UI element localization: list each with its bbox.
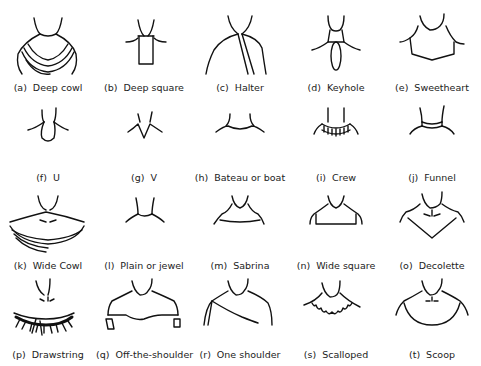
one-shoulder-illustration bbox=[192, 275, 288, 351]
label: (n)Wide square bbox=[288, 260, 384, 271]
scalloped-illustration bbox=[288, 275, 384, 351]
label: (d)Keyhole bbox=[288, 82, 384, 93]
neckline-funnel: (j)Funnel bbox=[384, 98, 480, 189]
neckline-v: (g)V bbox=[96, 98, 192, 189]
keyhole-illustration bbox=[288, 8, 384, 84]
sabrina-illustration bbox=[192, 186, 288, 262]
neckline-scoop: (t)Scoop bbox=[384, 275, 480, 366]
label: (p)Drawstring bbox=[0, 349, 96, 360]
v-illustration bbox=[96, 98, 192, 174]
neckline-u: (f)U bbox=[0, 98, 96, 189]
halter-illustration bbox=[192, 8, 288, 84]
neckline-off-the-shoulder: (q)Off-the-shoulder bbox=[96, 275, 192, 366]
neckline-wide-cowl: (k)Wide Cowl bbox=[0, 186, 96, 277]
sweetheart-illustration bbox=[384, 8, 480, 84]
neckline-one-shoulder: (r)One shoulder bbox=[192, 275, 288, 366]
neckline-deep-cowl: (a)Deep cowl bbox=[0, 8, 96, 99]
neckline-keyhole: (d)Keyhole bbox=[288, 8, 384, 99]
label: (m)Sabrina bbox=[192, 260, 288, 271]
neckline-deep-square: (b)Deep square bbox=[96, 8, 192, 99]
funnel-illustration bbox=[384, 98, 480, 174]
neckline-crew: (i)Crew bbox=[288, 98, 384, 189]
label: (l)Plain or jewel bbox=[96, 260, 192, 271]
label: (a)Deep cowl bbox=[0, 82, 96, 93]
plain-jewel-illustration bbox=[96, 186, 192, 262]
neckline-scalloped: (s)Scalloped bbox=[288, 275, 384, 366]
off-the-shoulder-illustration bbox=[96, 275, 192, 351]
deep-cowl-illustration bbox=[0, 8, 96, 84]
label: (o)Decolette bbox=[384, 260, 480, 271]
neckline-halter: (c)Halter bbox=[192, 8, 288, 99]
drawstring-illustration bbox=[0, 275, 96, 351]
scoop-illustration bbox=[384, 275, 480, 351]
label: (h)Bateau or boat bbox=[192, 172, 288, 183]
neckline-plain-jewel: (l)Plain or jewel bbox=[96, 186, 192, 277]
label: (e)Sweetheart bbox=[384, 82, 480, 93]
neckline-bateau: (h)Bateau or boat bbox=[192, 98, 288, 189]
crew-illustration bbox=[288, 98, 384, 174]
neckline-sweetheart: (e)Sweetheart bbox=[384, 8, 480, 99]
label: (t)Scoop bbox=[384, 349, 480, 360]
neckline-drawstring: (p)Drawstring bbox=[0, 275, 96, 366]
neckline-decolette: (o)Decolette bbox=[384, 186, 480, 277]
label: (g)V bbox=[96, 172, 192, 183]
decolette-illustration bbox=[384, 186, 480, 262]
label: (s)Scalloped bbox=[288, 349, 384, 360]
bateau-illustration bbox=[192, 98, 288, 174]
wide-square-illustration bbox=[288, 186, 384, 262]
label: (b)Deep square bbox=[96, 82, 192, 93]
neckline-sabrina: (m)Sabrina bbox=[192, 186, 288, 277]
deep-square-illustration bbox=[96, 8, 192, 84]
label: (k)Wide Cowl bbox=[0, 260, 96, 271]
neckline-wide-square: (n)Wide square bbox=[288, 186, 384, 277]
label: (f)U bbox=[0, 172, 96, 183]
label: (i)Crew bbox=[288, 172, 384, 183]
label: (c)Halter bbox=[192, 82, 288, 93]
label: (r)One shoulder bbox=[192, 349, 288, 360]
label: (j)Funnel bbox=[384, 172, 480, 183]
u-illustration bbox=[0, 98, 96, 174]
wide-cowl-illustration bbox=[0, 186, 96, 262]
label: (q)Off-the-shoulder bbox=[96, 349, 192, 360]
